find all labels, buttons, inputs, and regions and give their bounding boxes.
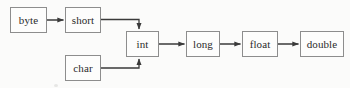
node-long: long xyxy=(186,31,220,57)
node-byte: byte xyxy=(10,7,47,33)
node-char: char xyxy=(65,55,101,81)
edge-short-to-int xyxy=(101,20,139,30)
node-double-label: double xyxy=(307,38,338,49)
edge-layer xyxy=(0,0,350,88)
node-int: int xyxy=(126,31,159,57)
node-long-label: long xyxy=(193,38,213,49)
node-byte-label: byte xyxy=(19,14,38,25)
diagram-canvas: byte short char int long float double xyxy=(0,0,350,88)
node-short-label: short xyxy=(72,14,95,25)
node-char-label: char xyxy=(73,62,92,73)
edge-char-to-int xyxy=(101,59,139,68)
node-float: float xyxy=(242,31,278,57)
scan-artifact xyxy=(54,84,58,87)
node-short: short xyxy=(65,7,101,33)
node-float-label: float xyxy=(250,38,271,49)
node-double: double xyxy=(300,31,344,57)
node-int-label: int xyxy=(137,38,149,49)
